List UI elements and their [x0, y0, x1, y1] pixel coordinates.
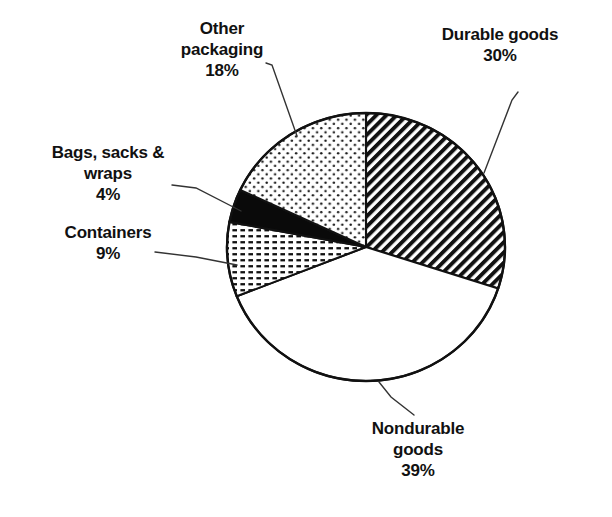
leader-line-nondurable-goods — [379, 382, 414, 415]
slice-label-other-packaging: Other packaging 18% — [132, 18, 312, 81]
slice-label-bags-sacks-wraps: Bags, sacks & wraps 4% — [8, 142, 208, 205]
leader-line-durable-goods — [484, 92, 518, 173]
slice-label-nondurable-goods: Nondurable goods 39% — [318, 418, 518, 481]
pie-slices-group — [227, 113, 505, 381]
slice-label-durable-goods: Durable goods 30% — [400, 24, 600, 66]
pie-chart-figure: Other packaging 18% Durable goods 30% Ba… — [0, 0, 612, 517]
slice-label-containers: Containers 9% — [8, 222, 208, 264]
